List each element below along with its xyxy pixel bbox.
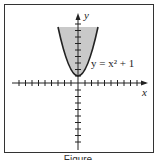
figure-caption: Figure [0, 154, 156, 160]
graph [0, 0, 156, 160]
figure: y x y = x² + 1 Figure [0, 0, 156, 160]
equation-label: y = x² + 1 [91, 57, 134, 69]
y-axis-label: y [84, 9, 89, 21]
frame [5, 5, 154, 153]
x-axis-label: x [142, 86, 147, 98]
